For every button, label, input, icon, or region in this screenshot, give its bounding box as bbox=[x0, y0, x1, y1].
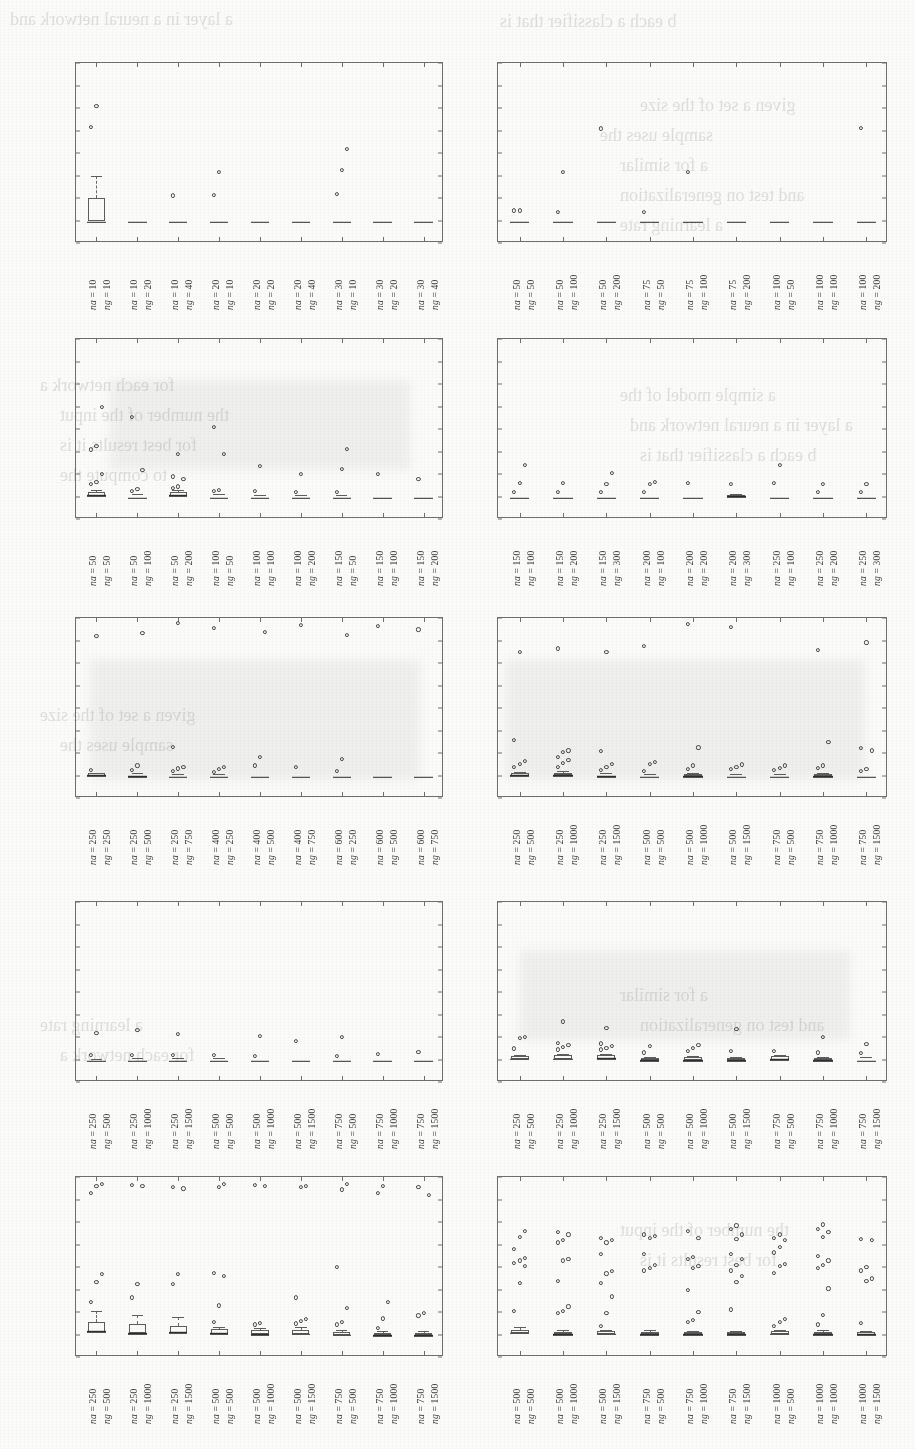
x-tick-label-na: na = 500 bbox=[512, 1389, 522, 1424]
x-tick-label-na: na = 250 bbox=[815, 551, 825, 586]
x-tick-label-na: na = 20 bbox=[211, 279, 221, 310]
x-tick-label-na: na = 1000 bbox=[815, 1384, 825, 1424]
x-tick-label-ng: ng = 500 bbox=[102, 1114, 112, 1149]
x-tick-label-ng: ng = 40 bbox=[430, 279, 440, 310]
plot-area bbox=[75, 617, 443, 797]
x-tick-label-ng: ng = 500 bbox=[786, 830, 796, 865]
y-tick-mark bbox=[498, 519, 502, 520]
outlier-point bbox=[870, 1276, 874, 1280]
x-tick-label-na: na = 750 bbox=[772, 830, 782, 865]
plot-area bbox=[75, 901, 443, 1081]
boxplot-group bbox=[76, 339, 442, 517]
boxplot-group bbox=[76, 902, 442, 1080]
x-tick-label-na: na = 500 bbox=[293, 1389, 303, 1424]
y-tick-mark-right bbox=[882, 519, 886, 520]
x-axis-labels: na = 250ng = 500na = 250ng = 1000na = 25… bbox=[497, 803, 887, 869]
x-tick-label-ng: ng = 500 bbox=[656, 1114, 666, 1149]
x-tick-label-ng: ng = 40 bbox=[307, 279, 317, 310]
boxplot-group bbox=[76, 63, 442, 241]
x-tick-label-ng: ng = 100 bbox=[266, 551, 276, 586]
median-line bbox=[857, 1060, 877, 1062]
x-tick-label-na: na = 500 bbox=[685, 830, 695, 865]
x-tick-label-na: na = 100 bbox=[815, 275, 825, 310]
x-tick-label-ng: ng = 500 bbox=[102, 1389, 112, 1424]
x-axis-labels: na = 50ng = 50na = 50ng = 100na = 50ng =… bbox=[75, 524, 443, 590]
x-tick-label-ng: ng = 100 bbox=[786, 551, 796, 586]
x-tick-label-na: na = 600 bbox=[375, 830, 385, 865]
whisker-cap-upper bbox=[860, 1331, 872, 1332]
y-tick-mark-right bbox=[438, 798, 442, 799]
x-tick-label-na: na = 50 bbox=[598, 279, 608, 310]
x-tick-label-na: na = 500 bbox=[598, 1389, 608, 1424]
x-tick-label-na: na = 200 bbox=[728, 551, 738, 586]
x-tick-label-na: na = 250 bbox=[512, 830, 522, 865]
x-tick-label-na: na = 20 bbox=[293, 279, 303, 310]
x-tick-label-na: na = 30 bbox=[375, 279, 385, 310]
x-tick-label-ng: ng = 1000 bbox=[569, 1384, 579, 1424]
y-tick-mark-right bbox=[882, 243, 886, 244]
x-tick-label-ng: ng = 1000 bbox=[143, 1109, 153, 1149]
x-tick-label-ng: ng = 1500 bbox=[742, 1384, 752, 1424]
x-tick-label-na: na = 600 bbox=[416, 830, 426, 865]
x-tick-label-ng: ng = 200 bbox=[430, 551, 440, 586]
outlier-point bbox=[859, 769, 863, 773]
x-axis-labels: na = 10ng = 10na = 10ng = 20na = 10ng = … bbox=[75, 248, 443, 314]
x-tick-label-ng: ng = 1500 bbox=[872, 1384, 882, 1424]
x-tick-label-ng: ng = 200 bbox=[699, 551, 709, 586]
outlier-point bbox=[864, 767, 868, 771]
x-axis-labels: na = 500ng = 500na = 500ng = 1000na = 50… bbox=[497, 1362, 887, 1428]
x-tick-label-ng: ng = 1500 bbox=[430, 1109, 440, 1149]
x-tick-label-ng: ng = 100 bbox=[389, 551, 399, 586]
x-tick-label-ng: ng = 750 bbox=[307, 830, 317, 865]
x-tick-label-ng: ng = 200 bbox=[569, 551, 579, 586]
x-tick-label-ng: ng = 300 bbox=[872, 551, 882, 586]
y-tick-mark bbox=[498, 243, 502, 244]
x-tick-label-ng: ng = 100 bbox=[569, 275, 579, 310]
x-tick-label-na: na = 200 bbox=[642, 551, 652, 586]
outlier-point bbox=[859, 1321, 863, 1325]
x-tick-label-ng: ng = 500 bbox=[656, 1389, 666, 1424]
x-tick-label-na: na = 750 bbox=[416, 1389, 426, 1424]
outlier-point bbox=[870, 1238, 874, 1242]
x-tick-label-ng: ng = 20 bbox=[389, 279, 399, 310]
outlier-point bbox=[416, 627, 420, 631]
outlier-point bbox=[859, 746, 863, 750]
x-tick-label-na: na = 250 bbox=[598, 830, 608, 865]
x-tick-label-ng: ng = 750 bbox=[184, 830, 194, 865]
x-tick-label-na: na = 250 bbox=[88, 830, 98, 865]
outlier-point bbox=[864, 482, 868, 486]
x-tick-label-na: na = 600 bbox=[334, 830, 344, 865]
x-tick-label-na: na = 500 bbox=[728, 1114, 738, 1149]
x-tick-label-ng: ng = 50 bbox=[526, 279, 536, 310]
x-tick-label-ng: ng = 1500 bbox=[612, 1384, 622, 1424]
x-tick-label-ng: ng = 1500 bbox=[872, 825, 882, 865]
x-tick-label-ng: ng = 500 bbox=[656, 830, 666, 865]
x-axis-labels: na = 250ng = 500na = 250ng = 1000na = 25… bbox=[497, 1087, 887, 1153]
median-line bbox=[857, 497, 877, 499]
whisker-cap-upper bbox=[418, 1331, 429, 1332]
x-tick-label-na: na = 500 bbox=[211, 1389, 221, 1424]
x-tick-label-na: na = 500 bbox=[211, 1114, 221, 1149]
x-tick-label-ng: ng = 100 bbox=[699, 275, 709, 310]
x-tick-label-na: na = 750 bbox=[375, 1114, 385, 1149]
x-tick-label-ng: ng = 200 bbox=[612, 275, 622, 310]
x-tick-label-na: na = 150 bbox=[512, 551, 522, 586]
x-tick-label-na: na = 750 bbox=[858, 1114, 868, 1149]
x-tick-label-na: na = 150 bbox=[598, 551, 608, 586]
x-tick-label-ng: ng = 200 bbox=[742, 275, 752, 310]
plot-area bbox=[497, 1176, 887, 1356]
x-tick-label-na: na = 10 bbox=[88, 279, 98, 310]
x-tick-label-ng: ng = 200 bbox=[872, 275, 882, 310]
median-line bbox=[414, 497, 432, 499]
y-tick-mark-right bbox=[438, 1357, 442, 1358]
x-tick-label-na: na = 30 bbox=[334, 279, 344, 310]
outlier-point bbox=[427, 1193, 431, 1197]
median-line bbox=[414, 1060, 432, 1062]
outlier-point bbox=[859, 490, 863, 494]
x-tick-label-ng: ng = 40 bbox=[184, 279, 194, 310]
x-tick-label-na: na = 250 bbox=[170, 1114, 180, 1149]
boxplot-group bbox=[498, 618, 886, 796]
outlier-point bbox=[416, 477, 420, 481]
x-tick-label-na: na = 250 bbox=[598, 1114, 608, 1149]
x-tick-label-ng: ng = 100 bbox=[526, 551, 536, 586]
